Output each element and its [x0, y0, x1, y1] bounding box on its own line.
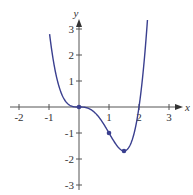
x-axis-arrow-icon [175, 104, 183, 110]
y-axis-label: y [73, 7, 79, 19]
x-tick-label: -1 [44, 111, 53, 123]
x-axis-label: x [184, 101, 190, 113]
marked-points [77, 105, 127, 154]
y-tick-label: 1 [69, 75, 75, 87]
y-tick-label: -3 [65, 179, 75, 191]
x-tick-label: 1 [106, 111, 112, 123]
x-tick-label: 3 [166, 111, 172, 123]
x-tick-label: -2 [14, 111, 23, 123]
data-point [122, 149, 127, 154]
data-point [107, 131, 112, 136]
chart: -2 -1 1 2 3 3 2 1 -1 -2 -3 x y [0, 0, 193, 195]
y-tick-label: 3 [69, 23, 75, 35]
y-axis-arrow-icon [76, 19, 82, 27]
y-tick-label: 2 [69, 49, 75, 61]
data-point [77, 105, 82, 110]
y-tick-label: -1 [65, 127, 74, 139]
y-tick-label: -2 [65, 153, 74, 165]
